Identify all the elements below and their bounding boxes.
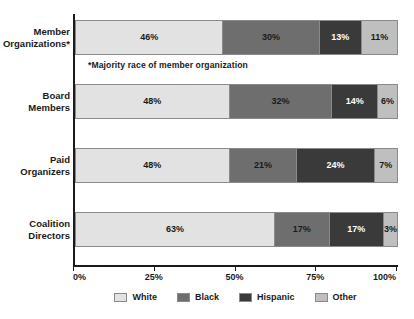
legend-item[interactable]: Hispanic [239, 292, 295, 302]
category-label-line: Board [0, 90, 70, 102]
bar-segment-value-label: 3% [384, 225, 397, 234]
bar-row: 48%21%24%7% [75, 148, 398, 183]
legend-item[interactable]: Black [177, 292, 219, 302]
bar-segment: 14% [331, 85, 377, 118]
x-axis-tick-mark [396, 266, 397, 271]
x-axis-tick-mark [315, 266, 316, 271]
x-axis-line [73, 265, 398, 267]
footnote: *Majority race of member organization [88, 60, 248, 70]
legend-swatch [177, 293, 190, 302]
bar-segment: 17% [274, 213, 328, 246]
x-axis-tick-label: 75% [306, 272, 324, 282]
x-axis-tick-label: 25% [145, 272, 163, 282]
x-axis-tick-label: 0% [73, 272, 86, 282]
bar-segment: 24% [296, 149, 373, 182]
bar-segment-value-label: 17% [347, 225, 365, 234]
bar-segment: 48% [76, 149, 229, 182]
bar-row: 48%32%14%6% [75, 84, 398, 119]
category-label-line: Organizers [0, 166, 70, 178]
x-axis-tick-mark [73, 266, 74, 271]
category-label-line: Organizations* [0, 38, 70, 50]
x-axis-tick-mark [154, 266, 155, 271]
bar-row: 46%30%13%11% [75, 20, 398, 55]
x-axis-tick-label: 100% [373, 272, 396, 282]
bar-segment-value-label: 21% [254, 161, 272, 170]
bar-segment: 46% [76, 21, 222, 54]
bar-segment: 7% [374, 149, 397, 182]
legend-label: Hispanic [257, 292, 295, 302]
category-label-line: Members [0, 102, 70, 114]
legend-swatch [239, 293, 252, 302]
x-axis-tick-mark [235, 266, 236, 271]
category-label-line: Directors [0, 230, 70, 242]
chart-legend: WhiteBlackHispanicOther [73, 292, 398, 302]
bar-segment-value-label: 13% [331, 33, 349, 42]
bar-segment: 48% [76, 85, 229, 118]
x-axis-tick-label: 50% [225, 272, 243, 282]
legend-item[interactable]: Other [315, 292, 357, 302]
bar-segment-value-label: 6% [381, 97, 394, 106]
category-label: BoardMembers [0, 90, 70, 113]
category-axis-labels: MemberOrganizations*BoardMembersPaidOrga… [0, 0, 70, 319]
bar-segment-value-label: 11% [371, 33, 389, 42]
legend-swatch [315, 293, 328, 302]
bar-segment-value-label: 46% [140, 33, 158, 42]
category-label: PaidOrganizers [0, 154, 70, 177]
legend-label: White [132, 292, 157, 302]
category-label-line: Paid [0, 154, 70, 166]
bar-segment: 30% [222, 21, 318, 54]
bar-row: 63%17%17%3% [75, 212, 398, 247]
bar-segment: 17% [329, 213, 383, 246]
bar-segment-value-label: 48% [143, 161, 161, 170]
bar-segment-value-label: 63% [166, 225, 184, 234]
bar-segment-value-label: 32% [272, 97, 290, 106]
category-label: MemberOrganizations* [0, 26, 70, 49]
bar-segment: 3% [383, 213, 397, 246]
bar-segment-value-label: 30% [262, 33, 280, 42]
bar-segment: 63% [76, 213, 274, 246]
bar-segment: 13% [319, 21, 361, 54]
bar-segment-value-label: 17% [293, 225, 311, 234]
legend-item[interactable]: White [114, 292, 157, 302]
bar-segment-value-label: 24% [327, 161, 345, 170]
stacked-bar-chart: MemberOrganizations*BoardMembersPaidOrga… [0, 0, 414, 319]
legend-label: Other [333, 292, 357, 302]
legend-label: Black [195, 292, 219, 302]
bar-segment-value-label: 14% [346, 97, 364, 106]
category-label-line: Coalition [0, 218, 70, 230]
bar-segment: 6% [377, 85, 397, 118]
bar-segment-value-label: 7% [379, 161, 392, 170]
bar-segment-value-label: 48% [143, 97, 161, 106]
category-label-line: Member [0, 26, 70, 38]
legend-swatch [114, 293, 127, 302]
bar-segment: 21% [229, 149, 297, 182]
bar-segment: 32% [229, 85, 332, 118]
category-label: CoalitionDirectors [0, 218, 70, 241]
bar-segment: 11% [361, 21, 397, 54]
